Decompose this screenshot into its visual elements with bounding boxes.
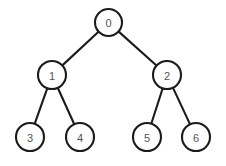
tree-edge-1-4 (58, 87, 75, 125)
tree-node-1[interactable]: 1 (38, 61, 66, 89)
node-label-6: 6 (193, 132, 199, 144)
node-label-5: 5 (144, 132, 150, 144)
node-label-2: 2 (164, 70, 170, 82)
node-label-1: 1 (49, 70, 55, 82)
tree-edge-0-1 (62, 31, 99, 66)
tree-node-0[interactable]: 0 (95, 9, 122, 36)
tree-node-3[interactable]: 3 (16, 123, 44, 151)
tree-edge-2-6 (173, 87, 191, 125)
tree-node-6[interactable]: 6 (182, 123, 210, 151)
binary-tree-diagram: 0123456 (0, 0, 226, 166)
tree-edge-0-2 (118, 31, 157, 66)
tree-node-4[interactable]: 4 (66, 123, 94, 151)
node-label-3: 3 (27, 132, 33, 144)
node-label-4: 4 (77, 132, 83, 144)
tree-node-2[interactable]: 2 (153, 61, 181, 89)
tree-edge-2-5 (151, 88, 163, 124)
tree-canvas: 0123456 (0, 0, 226, 166)
node-layer: 0123456 (16, 9, 210, 151)
tree-node-5[interactable]: 5 (133, 123, 161, 151)
node-label-0: 0 (105, 17, 111, 29)
tree-edge-1-3 (34, 88, 47, 125)
